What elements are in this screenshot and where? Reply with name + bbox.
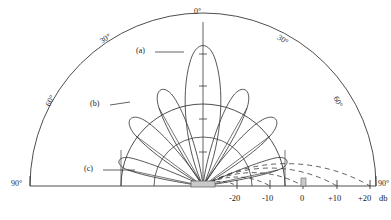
curve-label-b: (b)	[90, 100, 99, 108]
db-label-0: 0	[300, 194, 304, 203]
lobe-c-left-3	[119, 157, 203, 186]
db-label--10: -10	[262, 194, 273, 203]
curve-label-c: (c)	[84, 165, 93, 173]
radial-spoke-right-1	[203, 108, 247, 186]
lobe-c-left-2	[129, 117, 203, 186]
zero-db-marker	[301, 178, 306, 186]
db-label--20: -20	[229, 194, 240, 203]
figure-root: 0° 30° 30° 60° 60° 90° 90° (a) (b) (c) -…	[0, 0, 391, 220]
angle-label-0: 0°	[194, 8, 201, 16]
db-label-+20: +20	[358, 194, 371, 203]
angle-label-left-90: 90°	[11, 180, 22, 188]
antenna-aperture-block	[191, 181, 215, 187]
leader-line-b	[110, 102, 130, 105]
radial-spoke-left-1	[159, 108, 203, 186]
db-unit-label: db	[379, 194, 388, 203]
curve-label-a: (a)	[136, 47, 145, 55]
db-label-+10: +10	[328, 194, 341, 203]
lobe-c-right-3	[203, 157, 287, 186]
polar-plot-svg	[0, 0, 391, 220]
lobe-c-right-2	[203, 117, 277, 186]
angle-label-right-90: 90°	[378, 180, 389, 188]
